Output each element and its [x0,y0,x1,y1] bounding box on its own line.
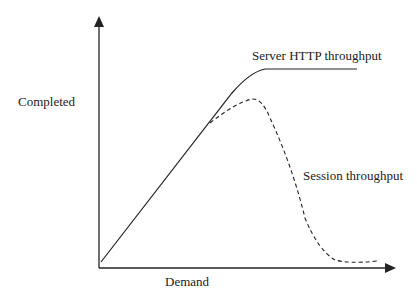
series-label-server-http: Server HTTP throughput [252,48,382,64]
series-label-session: Session throughput [303,168,403,184]
chart-canvas [0,0,417,301]
server-http-throughput-line [101,69,357,262]
x-axis-arrow-icon [385,263,396,273]
y-axis-arrow-icon [94,16,104,27]
y-axis-label: Completed [18,94,75,110]
x-axis-label: Demand [165,274,209,290]
